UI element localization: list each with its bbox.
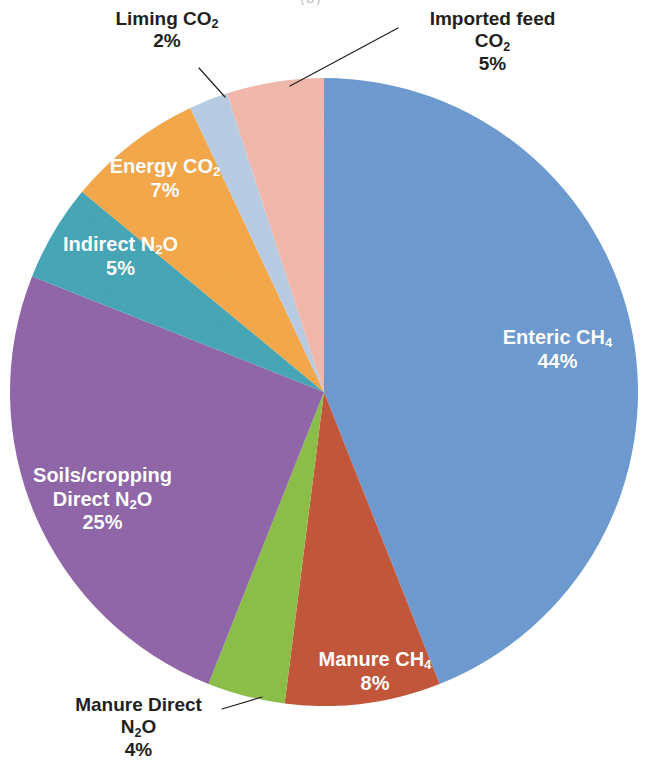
slice-label-manure-direct-name2: N xyxy=(121,716,135,737)
slice-label-manure-direct: Manure Direct N2O 4% xyxy=(36,694,241,761)
subscript-4: 4 xyxy=(605,335,612,350)
slice-label-manure-direct-name: Manure Direct xyxy=(36,694,241,716)
chart-canvas: (b) xyxy=(0,0,650,775)
subscript-2: 2 xyxy=(134,726,141,740)
slice-label-energy: Energy CO2 7% xyxy=(95,155,235,202)
slice-value-indirect: 5% xyxy=(48,257,193,281)
slice-label-indirect: Indirect N2O 5% xyxy=(48,233,193,280)
slice-label-imported: Imported feed CO2 5% xyxy=(400,8,585,75)
leader-line-imported xyxy=(290,28,398,86)
slice-value-enteric: 44% xyxy=(480,350,635,374)
subscript-2: 2 xyxy=(213,164,220,179)
slice-label-energy-name: Energy CO xyxy=(110,155,213,177)
slice-value-soils: 25% xyxy=(10,511,195,535)
subscript-4: 4 xyxy=(424,657,431,672)
slice-value-imported: 5% xyxy=(400,53,585,75)
subscript-2: 2 xyxy=(503,40,510,54)
subscript-2: 2 xyxy=(129,497,136,512)
slice-label-liming: Liming CO2 2% xyxy=(92,8,242,53)
slice-label-indirect-name2: O xyxy=(163,233,179,255)
slice-value-energy: 7% xyxy=(95,179,235,203)
slice-label-manure-ch4-name: Manure CH xyxy=(319,648,425,670)
slice-label-manure-direct-name3: O xyxy=(141,716,156,737)
slice-label-soils: Soils/cropping Direct N2O 25% xyxy=(10,464,195,535)
subscript-2: 2 xyxy=(212,17,219,31)
slice-label-manure-ch4: Manure CH4 8% xyxy=(295,648,455,695)
slice-label-liming-name: Liming CO xyxy=(115,8,211,29)
leader-line-liming xyxy=(199,68,225,97)
subscript-2: 2 xyxy=(155,242,162,257)
slice-label-indirect-name: Indirect N xyxy=(63,233,155,255)
slice-label-enteric-name: Enteric CH xyxy=(503,326,605,348)
slice-value-manure-ch4: 8% xyxy=(295,672,455,696)
slice-label-soils-name3: O xyxy=(137,488,153,510)
slice-label-soils-name: Soils/cropping xyxy=(10,464,195,488)
slice-value-liming: 2% xyxy=(92,30,242,52)
slice-label-imported-name2: CO xyxy=(475,30,504,51)
slice-label-enteric: Enteric CH4 44% xyxy=(480,326,635,373)
slice-label-imported-name: Imported feed xyxy=(400,8,585,30)
slice-value-manure-direct: 4% xyxy=(36,739,241,761)
slice-label-soils-name2: Direct N xyxy=(53,488,130,510)
